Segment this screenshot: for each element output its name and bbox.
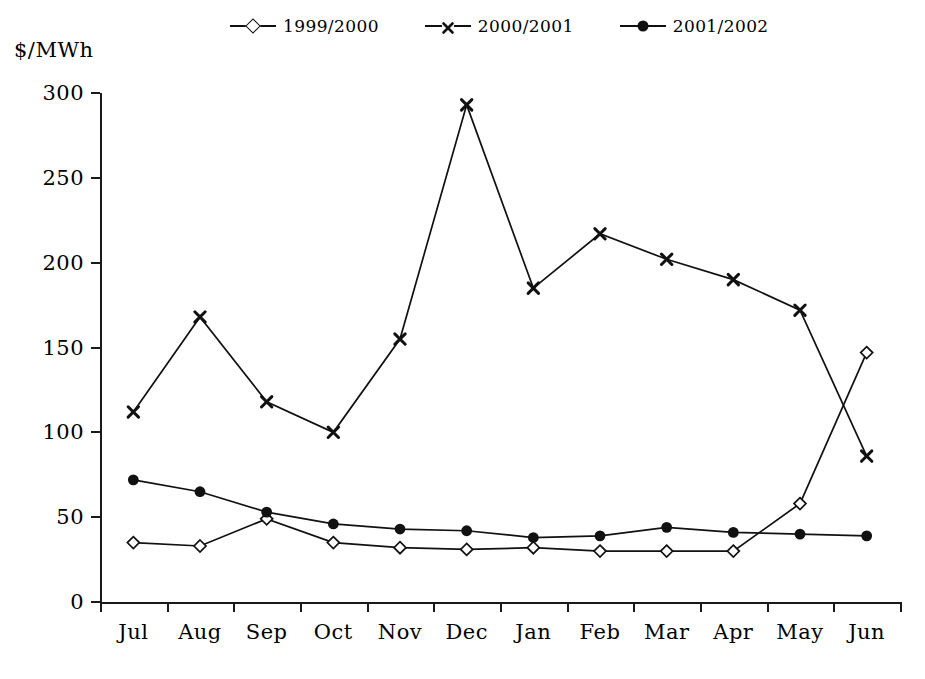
y-axis-tick [91,177,100,179]
legend-item-2001-2002: 2001/2002 [620,16,769,36]
data-point-x-icon [328,427,338,437]
data-point-open-diamond-icon [327,537,339,549]
x-axis-tick-label: Aug [178,620,222,644]
y-axis-tick [91,262,100,264]
legend-key-open-diamond-icon [230,18,276,34]
y-axis-tick-label: 100 [22,420,84,444]
data-point-filled-circle-icon [595,530,606,541]
data-point-open-diamond-icon [661,545,673,557]
data-point-filled-circle-icon [861,530,872,541]
data-point-open-diamond-icon [194,540,206,552]
data-point-x-icon [395,334,405,344]
y-axis-tick [91,92,100,94]
data-point-x-icon [461,100,471,110]
y-axis-tick-label: 300 [22,81,84,105]
data-point-open-diamond-icon [794,498,806,510]
data-point-filled-circle-icon [261,507,272,518]
data-point-filled-circle-icon [128,474,139,485]
data-point-open-diamond-icon [127,537,139,549]
data-point-x-icon [195,312,205,322]
legend-label: 2001/2002 [673,16,769,36]
x-axis-tick-label: May [776,620,823,644]
x-axis-tick-label: Mar [644,620,690,644]
legend-key-filled-circle-icon [620,18,666,34]
series-layer [100,93,900,604]
data-point-x-icon [795,305,805,315]
y-axis-tick-label: 250 [22,166,84,190]
legend-item-2000-2001: 2000/2001 [425,16,574,36]
data-point-open-diamond-icon [861,347,873,359]
x-axis-tick-label: Nov [378,620,422,644]
data-point-x-icon [595,229,605,239]
chart-legend: 1999/2000 2000/2001 2001/2002 [230,16,769,36]
series-line [133,105,866,456]
data-point-x-icon [128,407,138,417]
data-point-filled-circle-icon [528,532,539,543]
data-point-x-icon [528,283,538,293]
y-axis-tick-label: 50 [22,505,84,529]
data-point-open-diamond-icon [527,542,539,554]
legend-label: 1999/2000 [283,16,379,36]
series-line [133,353,866,552]
data-point-open-diamond-icon [394,542,406,554]
data-point-x-icon [661,254,671,264]
data-point-filled-circle-icon [328,519,339,530]
series-2001-2002 [128,474,872,542]
x-axis-tick-label: Dec [445,620,488,644]
series-2000-2001 [128,100,872,462]
x-axis-tick-label: Jan [515,620,551,644]
data-point-filled-circle-icon [195,486,206,497]
legend-label: 2000/2001 [478,16,574,36]
x-axis-tick-label: Sep [246,620,288,644]
series-1999-2000 [127,347,872,558]
legend-key-x-icon [425,18,471,34]
line-chart: 1999/2000 2000/2001 2001/2002 $/MW [0,0,925,679]
y-axis-tick-label: 200 [22,251,84,275]
data-point-filled-circle-icon [795,529,806,540]
x-axis-tick-label: Jul [118,620,148,644]
y-axis-tick-label: 0 [22,590,84,614]
y-axis-tick-label: 150 [22,336,84,360]
y-axis-tick [91,347,100,349]
x-axis-tick [900,602,902,612]
x-axis-tick-label: Oct [314,620,353,644]
data-point-open-diamond-icon [594,545,606,557]
x-axis-tick-label: Feb [580,620,621,644]
x-axis-tick-label: Apr [713,620,753,644]
data-point-open-diamond-icon [727,545,739,557]
x-axis-tick-label: Jun [848,620,885,644]
plot-area: 050100150200250300 JulAugSepOctNovDecJan… [100,93,900,603]
data-point-filled-circle-icon [661,522,672,533]
data-point-filled-circle-icon [461,525,472,536]
data-point-x-icon [861,451,871,461]
y-axis-tick [91,516,100,518]
data-point-x-icon [261,397,271,407]
y-axis-unit-label: $/MWh [14,38,94,62]
data-point-open-diamond-icon [461,543,473,555]
data-point-filled-circle-icon [395,524,406,535]
data-point-x-icon [728,274,738,284]
legend-item-1999-2000: 1999/2000 [230,16,379,36]
y-axis-tick [91,601,100,603]
data-point-filled-circle-icon [728,527,739,538]
y-axis-tick [91,431,100,433]
